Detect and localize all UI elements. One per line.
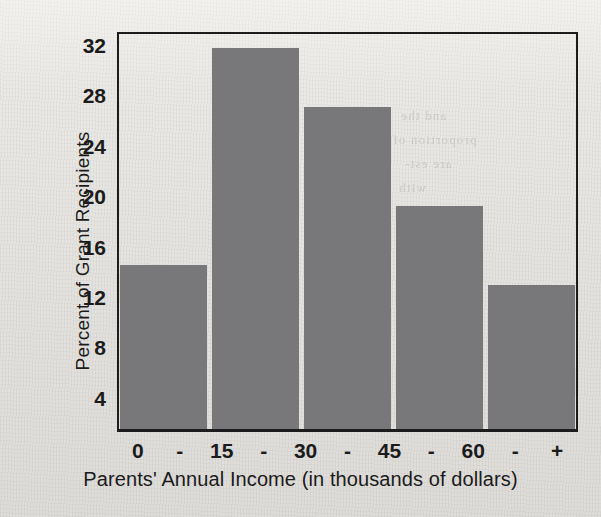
x-axis-tick-label: - bbox=[344, 440, 351, 461]
histogram-chart: Percent of Grant Recipients 322824201612… bbox=[0, 0, 601, 517]
x-axis-tick-label: 30 bbox=[294, 440, 317, 461]
x-axis-tick-label: 15 bbox=[210, 440, 233, 461]
x-axis-tick-labels: 0-15-30-45-60-+ bbox=[117, 440, 578, 468]
x-axis-tick-label: 60 bbox=[462, 440, 485, 461]
x-axis-title: Parents' Annual Income (in thousands of … bbox=[0, 468, 601, 491]
bar bbox=[396, 206, 483, 429]
x-axis-tick-label: 45 bbox=[378, 440, 401, 461]
x-axis-tick-label: + bbox=[551, 440, 563, 461]
x-axis-tick-label: - bbox=[428, 440, 435, 461]
y-axis-tick-label: 12 bbox=[58, 287, 106, 308]
y-axis-tick-label: 20 bbox=[58, 186, 106, 207]
bar bbox=[212, 48, 299, 429]
y-axis-tick-label: 24 bbox=[58, 136, 106, 157]
y-axis-tick-label: 16 bbox=[58, 237, 106, 258]
y-axis-tick-label: 8 bbox=[58, 337, 106, 358]
bar-series bbox=[119, 34, 576, 429]
bar bbox=[304, 107, 391, 429]
y-axis-tick-label: 32 bbox=[58, 35, 106, 56]
x-axis-tick-label: - bbox=[176, 440, 183, 461]
bar bbox=[488, 285, 575, 429]
x-axis-tick-label: - bbox=[260, 440, 267, 461]
y-axis-tick-label: 28 bbox=[58, 85, 106, 106]
y-axis-tick-label: 4 bbox=[58, 388, 106, 409]
scanned-page: and the proportion of are est- with of P… bbox=[0, 0, 601, 517]
x-axis-tick-label: - bbox=[512, 440, 519, 461]
x-axis-tick-label: 0 bbox=[132, 440, 144, 461]
plot-area bbox=[117, 32, 578, 432]
bar bbox=[120, 265, 207, 429]
